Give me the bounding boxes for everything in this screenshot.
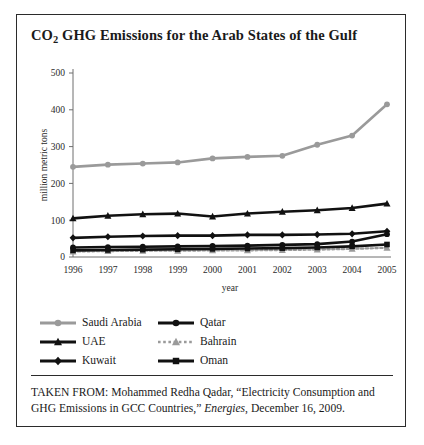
legend-swatch-triangle-icon xyxy=(39,336,77,348)
data-point xyxy=(245,246,251,252)
legend-swatch-square-icon xyxy=(157,355,195,367)
data-point xyxy=(245,154,251,160)
data-point xyxy=(140,161,146,167)
data-point xyxy=(314,231,321,238)
legend-label: Qatar xyxy=(200,317,226,329)
x-axis-tick-label: 2004 xyxy=(343,265,362,275)
y-axis-tick-label: 300 xyxy=(51,142,66,152)
data-point xyxy=(279,231,286,238)
chart-plot-area: 0100200300400500 19961997199819992000200… xyxy=(27,57,397,302)
data-point xyxy=(104,233,111,240)
title-prefix: CO xyxy=(31,27,53,43)
legend-item-saudi-arabia[interactable]: Saudi Arabia xyxy=(39,317,157,329)
title-main: GHG Emissions for the Arab States of the… xyxy=(62,27,357,43)
legend-swatch-circle-icon xyxy=(39,317,77,329)
data-point xyxy=(210,246,216,252)
legend-label: Oman xyxy=(200,355,228,367)
y-axis-tick-label: 200 xyxy=(51,179,66,189)
y-axis-tick-label: 400 xyxy=(51,105,66,115)
legend-swatch-triangle-icon xyxy=(157,336,195,348)
x-axis-tick-label: 1999 xyxy=(168,265,187,275)
data-point xyxy=(105,247,111,253)
y-axis: 0100200300400500 xyxy=(51,68,73,262)
data-point xyxy=(70,234,77,241)
data-point xyxy=(209,232,216,239)
data-point xyxy=(244,231,251,238)
x-axis-tick-label: 1996 xyxy=(64,265,83,275)
data-point xyxy=(384,242,390,248)
data-point xyxy=(70,248,76,254)
legend-label: Saudi Arabia xyxy=(82,317,142,329)
line-chart: 0100200300400500 19961997199819992000200… xyxy=(27,57,397,302)
data-point xyxy=(140,247,146,253)
x-axis-tick-label: 2002 xyxy=(273,265,292,275)
data-point xyxy=(280,245,286,251)
data-point xyxy=(314,245,320,251)
legend-label: Kuwait xyxy=(82,355,116,367)
data-point xyxy=(349,133,355,139)
title-subscript: 2 xyxy=(53,34,58,45)
page-title: CO2 GHG Emissions for the Arab States of… xyxy=(31,27,393,44)
x-axis-tick-label: 2003 xyxy=(308,265,327,275)
figure-caption: TAKEN FROM: Mohammed Redha Qadar, “Elect… xyxy=(31,385,395,418)
chart-legend: Saudi ArabiaQatarUAEBahrainKuwaitOman xyxy=(39,313,329,370)
legend-swatch-circle-icon xyxy=(157,317,195,329)
data-point xyxy=(384,101,390,107)
x-axis: 1996199719981999200020012002200320042005 xyxy=(64,257,397,275)
legend-label: UAE xyxy=(82,336,106,348)
data-point xyxy=(105,162,111,168)
legend-label: Bahrain xyxy=(200,336,236,348)
data-point xyxy=(314,142,320,148)
data-point xyxy=(279,153,285,159)
legend-swatch-diamond-icon xyxy=(39,355,77,367)
data-point xyxy=(175,246,181,252)
caption-divider xyxy=(31,375,393,376)
legend-item-qatar[interactable]: Qatar xyxy=(157,317,287,329)
x-axis-tick-label: 1998 xyxy=(133,265,152,275)
y-axis-tick-label: 500 xyxy=(51,68,66,78)
x-axis-tick-label: 2000 xyxy=(203,265,222,275)
x-axis-tick-label: 2001 xyxy=(238,265,257,275)
legend-item-oman[interactable]: Oman xyxy=(157,355,287,367)
data-point xyxy=(139,232,146,239)
legend-item-uae[interactable]: UAE xyxy=(39,336,157,348)
chart-series-group xyxy=(70,101,391,254)
x-axis-tick-label: 2005 xyxy=(378,265,397,275)
data-point xyxy=(70,164,76,170)
y-axis-tick-label: 100 xyxy=(51,216,66,226)
caption-tail: , December 16, 2009. xyxy=(245,402,345,415)
data-point xyxy=(384,231,390,237)
data-point xyxy=(349,244,355,250)
legend-item-bahrain[interactable]: Bahrain xyxy=(157,336,287,348)
data-point xyxy=(210,155,216,161)
chart-series xyxy=(70,200,391,221)
x-axis-title: year xyxy=(222,283,239,293)
y-axis-tick-label: 0 xyxy=(60,252,65,262)
x-axis-tick-label: 1997 xyxy=(98,265,117,275)
caption-journal: Energies xyxy=(204,402,245,415)
data-point xyxy=(175,160,181,166)
y-axis-title: million metric tons xyxy=(39,129,49,202)
legend-item-kuwait[interactable]: Kuwait xyxy=(39,355,157,367)
figure-card: CO2 GHG Emissions for the Arab States of… xyxy=(16,14,406,427)
data-point xyxy=(349,230,356,237)
data-point xyxy=(174,232,181,239)
chart-series xyxy=(70,101,390,169)
chart-series xyxy=(70,228,391,242)
